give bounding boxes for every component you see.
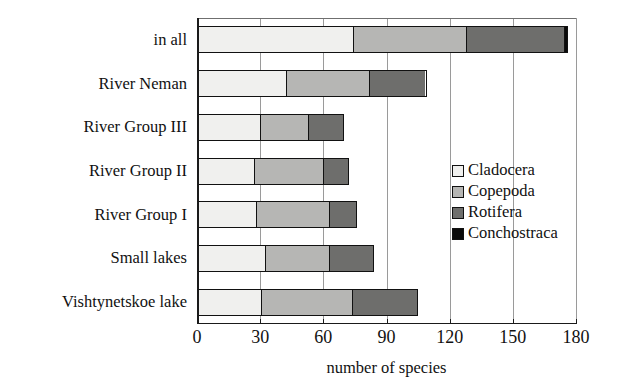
legend-item-conchostraca[interactable]: Conchostraca <box>452 223 614 244</box>
legend-swatch-icon <box>452 228 464 240</box>
y-axis-label-river-group-iii: River Group III <box>83 119 187 136</box>
legend-label: Cladocera <box>468 162 535 179</box>
x-axis-tick <box>576 319 577 324</box>
legend-label: Conchostraca <box>468 225 558 242</box>
y-axis-label-river-group-i: River Group I <box>94 207 187 224</box>
y-axis-label-river-neman: River Neman <box>99 76 187 93</box>
legend-item-rotifera[interactable]: Rotifera <box>452 202 614 223</box>
legend-swatch-icon <box>452 165 464 177</box>
y-axis-label-small-lakes: Small lakes <box>110 250 187 267</box>
y-axis-label-vishtynetskoe-lake: Vishtynetskoe lake <box>62 294 187 311</box>
legend-item-copepoda[interactable]: Copepoda <box>452 181 614 202</box>
chart-figure: in allRiver NemanRiver Group IIIRiver Gr… <box>0 0 618 392</box>
y-axis-label-river-group-ii: River Group II <box>89 163 187 180</box>
x-axis-tick-label: 180 <box>563 328 590 346</box>
legend-label: Rotifera <box>468 204 522 221</box>
legend-item-cladocera[interactable]: Cladocera <box>452 160 614 181</box>
x-axis-tick-labels: 0306090120150180 <box>197 328 576 354</box>
x-axis-tick-label: 30 <box>251 328 269 346</box>
x-axis-title: number of species <box>197 358 576 378</box>
legend-label: Copepoda <box>468 183 535 200</box>
x-axis-tick-label: 60 <box>314 328 332 346</box>
x-axis-tick-label: 0 <box>193 328 202 346</box>
x-axis-tick-label: 150 <box>499 328 526 346</box>
x-axis-tick-label: 120 <box>436 328 463 346</box>
x-axis-tick-label: 90 <box>378 328 396 346</box>
y-axis-category-labels: in allRiver NemanRiver Group IIIRiver Gr… <box>0 18 192 324</box>
legend: CladoceraCopepodaRotiferaConchostraca <box>452 160 614 244</box>
legend-swatch-icon <box>452 186 464 198</box>
y-axis-label-in-all: in all <box>154 32 187 49</box>
legend-swatch-icon <box>452 207 464 219</box>
